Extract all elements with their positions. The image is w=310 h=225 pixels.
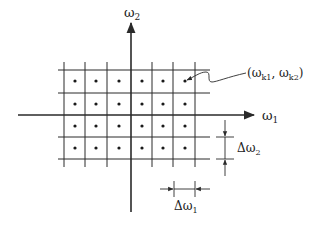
sample-point	[140, 102, 143, 105]
point-label: (ωk1, ωk2)	[247, 66, 303, 82]
sample-point	[117, 146, 120, 149]
sample-point	[183, 79, 186, 82]
sample-point	[161, 102, 164, 105]
frequency-lattice-diagram: ω1 ω2 (ωk1, ωk2) Δω2 Δω1	[0, 0, 310, 225]
sample-point	[140, 124, 143, 127]
omega1-axis-label: ω1	[262, 108, 278, 125]
sample-point	[73, 102, 76, 105]
sample-point	[73, 124, 76, 127]
delta-omega1-label: Δω1	[174, 199, 198, 215]
point-leader-line	[187, 72, 246, 82]
sample-point	[117, 102, 120, 105]
sample-point	[183, 124, 186, 127]
sample-point	[94, 102, 97, 105]
sample-point	[161, 146, 164, 149]
sample-point	[183, 146, 186, 149]
sample-point	[94, 79, 97, 82]
delta-omega2-dimension	[216, 120, 234, 176]
sample-point	[161, 79, 164, 82]
sample-point	[94, 146, 97, 149]
sample-point	[117, 79, 120, 82]
sample-point	[183, 102, 186, 105]
delta-omega1-dimension	[160, 181, 210, 197]
sample-point	[140, 79, 143, 82]
sample-point	[94, 124, 97, 127]
sample-point	[140, 146, 143, 149]
sample-point	[117, 124, 120, 127]
sample-point	[161, 124, 164, 127]
omega2-axis-label: ω2	[124, 5, 140, 22]
delta-omega2-label: Δω2	[237, 141, 261, 157]
sample-point	[73, 146, 76, 149]
sample-point	[73, 79, 76, 82]
